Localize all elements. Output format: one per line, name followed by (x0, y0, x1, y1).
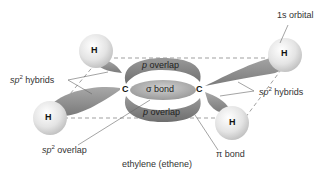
atom-h-top-left: H (91, 45, 98, 55)
label-sp2-hybrids-right: sp2 hybrids (259, 86, 303, 97)
diagram-title: ethylene (ethene) (122, 159, 192, 169)
atom-h-bottom-right: H (229, 117, 236, 127)
label-sp2-overlap: sp2 overlap (42, 144, 87, 155)
label-sigma-bond: σ bond (146, 84, 174, 94)
label-1s-orbital: 1s orbital (277, 10, 314, 20)
label-p-overlap-bottom: p overlap (143, 107, 180, 117)
label-p-overlap-top: p overlap (142, 60, 179, 70)
atom-h-bottom-left: H (45, 112, 52, 122)
atom-carbon-right: C (196, 84, 203, 94)
atom-carbon-left: C (122, 84, 129, 94)
label-pi-bond: π bond (216, 149, 245, 159)
label-sp2-hybrids-left: sp2 hybrids (10, 74, 54, 85)
atom-h-top-right: H (281, 48, 288, 58)
